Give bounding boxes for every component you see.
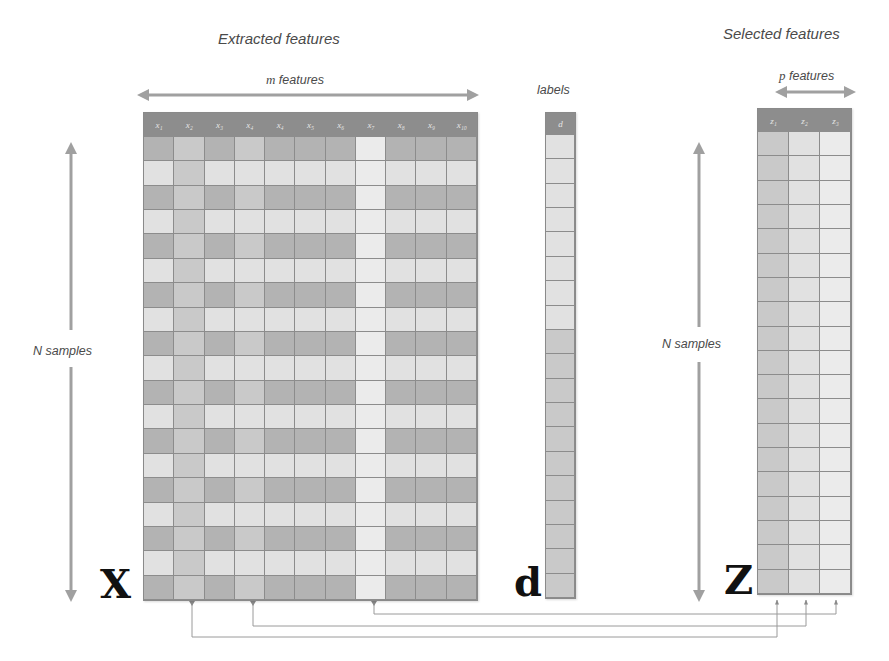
selection-connectors	[192, 600, 836, 637]
matrix-cell	[820, 254, 851, 278]
matrix-cell	[265, 308, 295, 332]
matrix-cell	[144, 234, 174, 258]
matrix-cell	[789, 181, 820, 205]
matrix-cell	[789, 448, 820, 472]
matrix-cell	[144, 186, 174, 210]
matrix-cell	[144, 551, 174, 575]
matrix-cell	[235, 308, 265, 332]
matrix-cell	[447, 186, 477, 210]
matrix-cell	[386, 356, 416, 380]
matrix-cell	[326, 478, 356, 502]
matrix-cell	[295, 381, 325, 405]
matrix-cell	[144, 503, 174, 527]
matrix-cell	[546, 330, 575, 354]
matrix-cell	[356, 527, 386, 551]
matrix-cell	[386, 186, 416, 210]
matrix-cell	[789, 424, 820, 448]
matrix-cell	[758, 156, 789, 180]
matrix-cell	[820, 278, 851, 302]
matrix-cell	[546, 379, 575, 403]
matrix-cell	[416, 161, 446, 185]
matrix-cell	[789, 375, 820, 399]
matrix-cell	[295, 332, 325, 356]
label-vector-d-body	[546, 135, 575, 598]
matrix-cell	[386, 259, 416, 283]
matrix-cell	[205, 429, 235, 453]
matrix-cell	[235, 356, 265, 380]
feature-matrix-x-header: x₁x₂x₃x₄x₄x₅x₆x₇x₈x₉x₁₀	[144, 113, 477, 137]
matrix-cell	[789, 156, 820, 180]
matrix-cell	[789, 205, 820, 229]
matrix-cell	[174, 234, 204, 258]
matrix-cell	[326, 576, 356, 600]
matrix-cell	[265, 210, 295, 234]
matrix-cell	[356, 551, 386, 575]
matrix-cell	[144, 454, 174, 478]
column-header: x₄	[265, 113, 295, 137]
matrix-cell	[546, 452, 575, 476]
matrix-cell	[758, 278, 789, 302]
column-header: z₂	[789, 109, 820, 132]
matrix-cell	[265, 356, 295, 380]
matrix-cell	[386, 137, 416, 161]
matrix-cell	[416, 137, 446, 161]
matrix-cell	[789, 302, 820, 326]
matrix-cell	[416, 283, 446, 307]
matrix-cell	[758, 229, 789, 253]
matrix-cell	[789, 327, 820, 351]
matrix-cell	[265, 259, 295, 283]
matrix-cell	[235, 381, 265, 405]
matrix-cell	[295, 308, 325, 332]
matrix-cell	[205, 576, 235, 600]
connector-source-ticks	[189, 601, 377, 606]
feature-matrix-x-body	[144, 137, 477, 600]
matrix-cell	[758, 497, 789, 521]
matrix-cell	[758, 351, 789, 375]
column-header: z₁	[758, 109, 789, 132]
matrix-cell	[265, 527, 295, 551]
matrix-cell	[546, 306, 575, 330]
connector-x2-z1	[192, 600, 777, 637]
matrix-cell	[174, 576, 204, 600]
matrix-cell	[356, 381, 386, 405]
matrix-cell	[386, 478, 416, 502]
column-header: x₉	[416, 113, 446, 137]
matrix-cell	[447, 283, 477, 307]
matrix-cell	[174, 283, 204, 307]
label-vector-d: d	[545, 112, 576, 599]
matrix-cell	[820, 156, 851, 180]
column-header: x₃	[205, 113, 235, 137]
matrix-cell	[174, 308, 204, 332]
matrix-cell	[546, 281, 575, 305]
matrix-cell	[326, 259, 356, 283]
matrix-cell	[295, 503, 325, 527]
selected-matrix-z: z₁z₂z₃	[757, 108, 852, 595]
matrix-cell	[386, 527, 416, 551]
matrix-cell	[416, 356, 446, 380]
matrix-cell	[326, 527, 356, 551]
matrix-cell	[416, 186, 446, 210]
matrix-cell	[235, 186, 265, 210]
matrix-cell	[546, 208, 575, 232]
matrix-cell	[447, 356, 477, 380]
matrix-cell	[265, 283, 295, 307]
matrix-cell	[326, 210, 356, 234]
column-header: x₄	[235, 113, 265, 137]
column-header: x₁₀	[447, 113, 477, 137]
matrix-cell	[447, 527, 477, 551]
matrix-cell	[416, 454, 446, 478]
matrix-cell	[447, 478, 477, 502]
matrix-cell	[356, 478, 386, 502]
matrix-cell	[820, 570, 851, 594]
matrix-cell	[820, 205, 851, 229]
matrix-cell	[447, 137, 477, 161]
matrix-cell	[356, 308, 386, 332]
matrix-cell	[356, 283, 386, 307]
matrix-cell	[356, 259, 386, 283]
matrix-cell	[205, 186, 235, 210]
matrix-cell	[356, 210, 386, 234]
matrix-cell	[447, 503, 477, 527]
matrix-cell	[820, 181, 851, 205]
matrix-cell	[356, 576, 386, 600]
matrix-cell	[758, 570, 789, 594]
